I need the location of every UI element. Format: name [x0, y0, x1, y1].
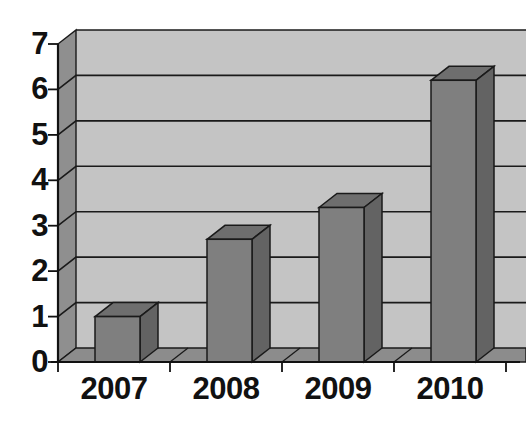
y-tick-label-6: 6: [14, 73, 48, 104]
y-axis-ticks: [48, 44, 58, 362]
bar-2007[interactable]: [95, 303, 158, 362]
bar-2010-side: [476, 66, 494, 362]
y-tick-label-1: 1: [14, 301, 48, 332]
bar-2009[interactable]: [319, 194, 382, 363]
bar-2008[interactable]: [207, 225, 270, 362]
bar-2010[interactable]: [431, 66, 494, 362]
bar-2010-front: [431, 80, 476, 362]
x-axis-labels: 2007 2008 2009 2010: [0, 372, 526, 418]
y-tick-label-3: 3: [14, 210, 48, 241]
x-tick-label-2010: 2010: [385, 372, 515, 406]
y-tick-label-5: 5: [14, 119, 48, 150]
chart-left-wall: [58, 30, 76, 362]
y-tick-label-4: 4: [14, 164, 48, 195]
bar-2008-front: [207, 239, 252, 362]
bar-2008-side: [252, 225, 270, 362]
y-tick-label-2: 2: [14, 255, 48, 286]
y-tick-label-7: 7: [14, 28, 48, 59]
x-tick-label-2008: 2008: [161, 372, 291, 406]
chart-plot-area: [0, 0, 526, 422]
bar-2009-front: [319, 208, 364, 363]
x-tick-label-2009: 2009: [273, 372, 403, 406]
y-axis-labels: 7 6 5 4 3 2 1 0: [0, 0, 48, 422]
x-tick-label-2007: 2007: [49, 372, 179, 406]
bar-chart-screenshot: 7 6 5 4 3 2 1 0 2007 2008 2009 2010: [0, 0, 526, 422]
bar-2007-front: [95, 317, 140, 362]
bar-2009-side: [364, 194, 382, 363]
